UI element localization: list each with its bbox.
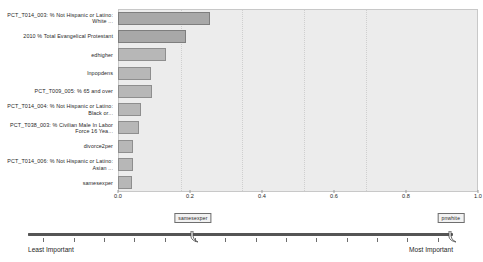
category-label: lnpopdens [0, 64, 116, 82]
x-axis-tick-label: 0.2 [186, 193, 194, 199]
slider-tick [225, 238, 226, 242]
slider-tick [134, 238, 135, 242]
bar [118, 103, 141, 116]
category-label: PCT_T014_003: % Not Hispanic or Latino: … [0, 9, 116, 27]
x-axis-tick-label: 0.8 [402, 193, 410, 199]
bar [118, 67, 151, 80]
bar [118, 48, 166, 61]
bar-row [118, 155, 478, 173]
bar [118, 12, 210, 25]
slider-handle-label: samesexper [174, 213, 211, 223]
slider-tick [407, 238, 408, 242]
category-label: 2010 % Total Evangelical Protestant [0, 27, 116, 45]
bar [118, 121, 139, 134]
bar-row [118, 82, 478, 100]
bar [118, 158, 133, 171]
slider-least-important-label: Least Important [28, 246, 74, 253]
bar [118, 30, 186, 43]
bar-row [118, 174, 478, 192]
bar [118, 176, 132, 189]
slider-tick [256, 238, 257, 242]
x-axis-tick-label: 0.0 [114, 193, 122, 199]
slider-most-important-label: Most Important [409, 246, 453, 253]
slider-track[interactable] [28, 233, 453, 236]
slider-tick [43, 238, 44, 242]
x-axis-tick-label: 0.6 [330, 193, 338, 199]
slider-tick [165, 238, 166, 242]
bar-row [118, 46, 478, 64]
category-label: edhigher [0, 46, 116, 64]
category-label: divorce2per [0, 137, 116, 155]
importance-slider[interactable]: samesexperpnwhite Least Important Most I… [0, 205, 483, 262]
slider-tick [104, 238, 105, 242]
bar-row [118, 64, 478, 82]
bar-row [118, 9, 478, 27]
slider-handle-label: pnwhite [438, 213, 465, 223]
slider-tick [74, 238, 75, 242]
category-label: samesexper [0, 174, 116, 192]
slider-tick [347, 238, 348, 242]
category-label: PCT_T014_006: % Not Hispanic or Latino: … [0, 155, 116, 173]
bar-row [118, 137, 478, 155]
x-axis-tick-label: 0.4 [258, 193, 266, 199]
category-label-column: PCT_T014_003: % Not Hispanic or Latino: … [0, 9, 116, 192]
bar [118, 85, 152, 98]
category-label: PCT_T009_005: % 65 and over [0, 82, 116, 100]
slider-tick [316, 238, 317, 242]
bar [118, 140, 133, 153]
bar-row [118, 27, 478, 45]
slider-handle[interactable] [189, 231, 198, 242]
slider-tick [377, 238, 378, 242]
category-label: PCT_T038_003: % Civilian Male In Labor F… [0, 119, 116, 137]
slider-tick [438, 238, 439, 242]
category-label: PCT_T014_004: % Not Hispanic or Latino: … [0, 100, 116, 118]
bar-row [118, 100, 478, 118]
x-axis: 0.00.20.40.60.81.0 [118, 193, 478, 205]
variable-importance-bar-chart: PCT_T014_003: % Not Hispanic or Latino: … [0, 0, 483, 200]
slider-tick [286, 238, 287, 242]
bars-layer [118, 9, 478, 192]
slider-handle[interactable] [447, 231, 456, 242]
bar-row [118, 119, 478, 137]
x-axis-tick-label: 1.0 [474, 193, 482, 199]
